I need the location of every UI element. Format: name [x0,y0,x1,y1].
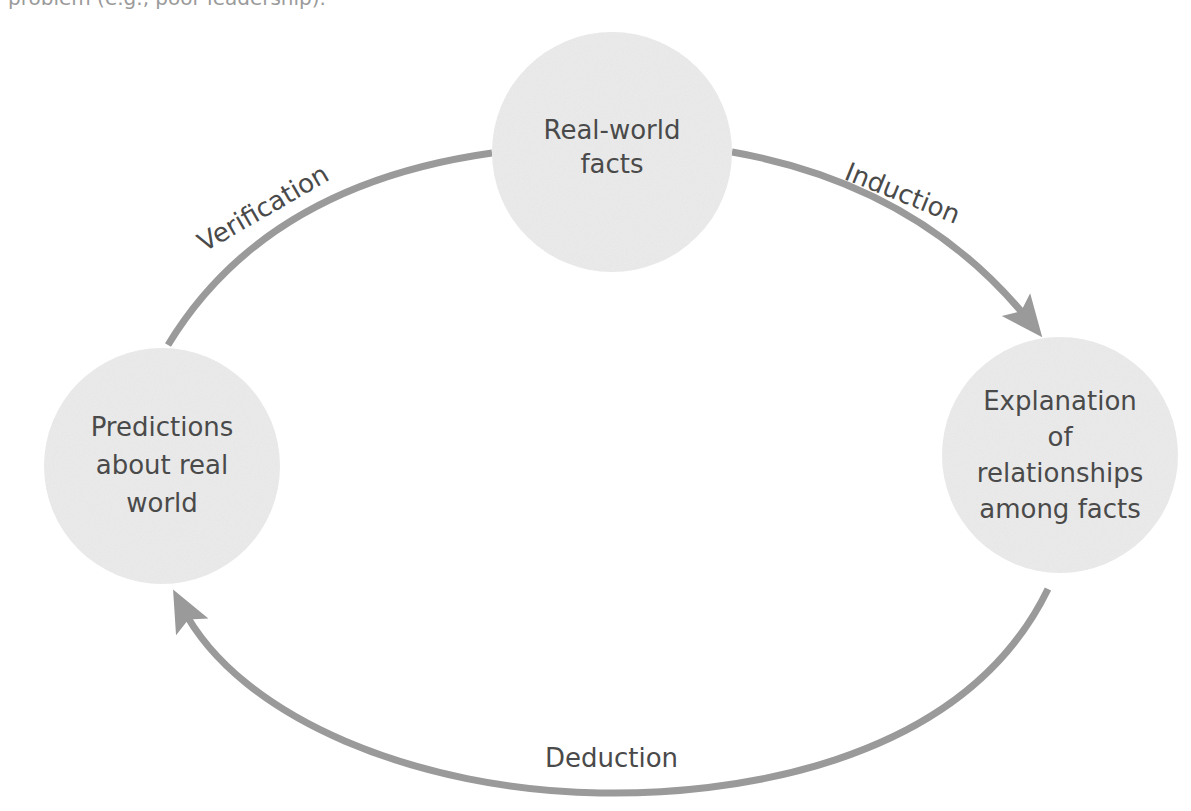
node-explanation-label: Explanation of relationships among facts [942,370,1178,540]
node-label-line: Explanation [977,383,1143,419]
node-label-line: of [977,419,1143,455]
node-label-line: facts [543,147,680,181]
node-label-line: relationships [977,455,1143,491]
node-label-line: about real [91,446,234,484]
deduction-label: Deduction [545,743,678,773]
node-real-world-facts-label: Real-world facts [492,92,732,202]
node-label-line: among facts [977,491,1143,527]
node-label-line: world [91,484,234,522]
node-predictions-label: Predictions about real world [44,400,280,530]
node-label-line: Predictions [91,408,234,446]
node-label-line: Real-world [543,113,680,147]
